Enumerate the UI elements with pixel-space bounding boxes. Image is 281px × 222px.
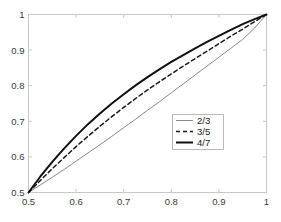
legend[interactable]: 2/33/54/7 <box>173 115 224 150</box>
plot-canvas: 0.50.60.70.80.91 0.50.60.70.80.91 2/33/5… <box>0 0 281 222</box>
y-tick-label: 0.5 <box>11 187 24 198</box>
y-tick-label: 1 <box>19 9 24 20</box>
plot-background <box>28 14 267 193</box>
chart-figure: 0.50.60.70.80.91 0.50.60.70.80.91 2/33/5… <box>0 0 281 222</box>
legend-label-2: 4/7 <box>197 137 210 148</box>
y-tick-label: 0.8 <box>11 80 24 91</box>
y-tick-label: 0.9 <box>11 45 24 56</box>
x-tick-label: 1 <box>264 196 269 207</box>
x-tick-label: 0.7 <box>117 196 130 207</box>
x-tick-label: 0.8 <box>165 196 178 207</box>
y-tick-label: 0.6 <box>11 151 24 162</box>
y-axis-tick-labels: 0.50.60.70.80.91 <box>11 9 24 198</box>
x-tick-label: 0.9 <box>212 196 225 207</box>
y-tick-label: 0.7 <box>11 116 24 127</box>
legend-label-0: 2/3 <box>197 115 210 126</box>
x-axis-tick-labels: 0.50.60.70.80.91 <box>22 196 269 207</box>
x-tick-label: 0.6 <box>69 196 82 207</box>
legend-label-1: 3/5 <box>197 126 210 137</box>
